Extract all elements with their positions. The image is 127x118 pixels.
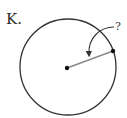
edge-point: [111, 49, 115, 53]
center-point: [65, 66, 69, 70]
circle-diagram: ?: [0, 0, 127, 118]
question-mark: ?: [115, 20, 121, 33]
curved-arrow-icon: [89, 27, 114, 54]
radius-line: [67, 51, 113, 68]
